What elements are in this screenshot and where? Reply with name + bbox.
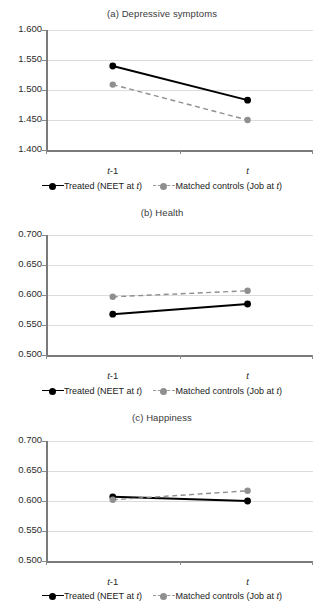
control-line: [113, 291, 248, 297]
y-axis-tick-label: 0.700: [0, 228, 42, 239]
panel-legend: Treated (NEET at t) Matched controls (Jo…: [0, 590, 324, 601]
legend-marker-control-icon: [153, 181, 175, 190]
treated-data-point: [109, 63, 116, 70]
x-axis-tick-mark: [46, 355, 47, 359]
control-data-point: [244, 117, 250, 123]
x-axis-tick-mark: [312, 355, 313, 359]
series-group: [46, 30, 313, 150]
y-axis-tick-label: 1.550: [0, 53, 42, 64]
y-axis-tick-label: 0.500: [0, 554, 42, 565]
y-axis-tick-label: 0.650: [0, 258, 42, 269]
legend-marker-treated-icon: [42, 591, 64, 600]
x-axis-tick-label-t: t: [218, 576, 278, 587]
panel-legend: Treated (NEET at t) Matched controls (Jo…: [0, 180, 324, 191]
legend-item-control: Matched controls (Job at t): [153, 385, 282, 396]
y-axis-tick-label: 1.500: [0, 83, 42, 94]
legend-label-control: Matched controls (Job at t): [175, 181, 282, 191]
legend-label-control: Matched controls (Job at t): [175, 386, 282, 396]
series-group: [46, 441, 313, 561]
control-line: [113, 85, 248, 120]
plot-area: 1.6001.5501.5001.4501.400: [46, 30, 313, 150]
treated-line: [113, 304, 248, 314]
legend-marker-control-icon: [153, 386, 175, 395]
legend-item-control: Matched controls (Job at t): [153, 590, 282, 601]
x-axis-tick-label-t-minus-1: t-1: [83, 165, 143, 176]
legend-item-treated: Treated (NEET at t): [42, 180, 142, 191]
treated-line: [113, 66, 248, 100]
y-axis-tick-label: 0.700: [0, 434, 42, 445]
plot-area: 0.7000.6500.6000.5500.500: [46, 441, 313, 561]
legend-label-treated: Treated (NEET at t): [64, 181, 142, 191]
y-axis-tick-label: 0.500: [0, 348, 42, 359]
x-axis-tick-mark: [180, 561, 181, 565]
legend-item-treated: Treated (NEET at t): [42, 590, 142, 601]
y-axis-tick-label: 0.550: [0, 524, 42, 535]
series-group: [46, 235, 313, 355]
treated-data-point: [244, 97, 251, 104]
control-data-point: [110, 81, 116, 87]
legend-label-control: Matched controls (Job at t): [175, 591, 282, 601]
x-axis-tick-mark: [312, 561, 313, 565]
x-axis-tick-mark: [180, 355, 181, 359]
control-data-point: [110, 294, 116, 300]
y-axis-tick-label: 1.600: [0, 23, 42, 34]
treated-data-point: [244, 498, 251, 505]
y-axis-tick-label: 0.600: [0, 288, 42, 299]
y-axis-tick-label: 1.450: [0, 113, 42, 124]
legend-marker-control-icon: [153, 591, 175, 600]
x-axis-tick-mark: [46, 561, 47, 565]
chart-panel-3: (c) Happiness 0.7000.6500.6000.5500.500 …: [0, 410, 324, 614]
treated-data-point: [109, 311, 116, 318]
control-data-point: [244, 488, 250, 494]
panel-title-1: (a) Depressive symptoms: [0, 8, 324, 19]
x-axis-tick-label-t-minus-1: t-1: [83, 576, 143, 587]
x-axis-tick-label-t-minus-1: t-1: [83, 370, 143, 381]
y-axis-tick-label: 0.550: [0, 318, 42, 329]
x-axis-tick-label-t: t: [218, 370, 278, 381]
panel-legend: Treated (NEET at t) Matched controls (Jo…: [0, 385, 324, 396]
treated-data-point: [244, 301, 251, 308]
legend-item-treated: Treated (NEET at t): [42, 385, 142, 396]
control-data-point: [244, 288, 250, 294]
legend-item-control: Matched controls (Job at t): [153, 180, 282, 191]
x-axis-tick-label-t: t: [218, 165, 278, 176]
y-axis-tick-label: 0.650: [0, 464, 42, 475]
legend-label-treated: Treated (NEET at t): [64, 591, 142, 601]
x-axis-tick-mark: [312, 150, 313, 154]
x-axis-tick-mark: [46, 150, 47, 154]
legend-marker-treated-icon: [42, 386, 64, 395]
panel-title-3: (c) Happiness: [0, 412, 324, 423]
panel-title-2: (b) Health: [0, 207, 324, 218]
chart-panel-1: (a) Depressive symptoms 1.6001.5501.5001…: [0, 0, 324, 204]
legend-label-treated: Treated (NEET at t): [64, 386, 142, 396]
y-axis-tick-label: 0.600: [0, 494, 42, 505]
chart-panel-2: (b) Health 0.7000.6500.6000.5500.500 Tre…: [0, 205, 324, 409]
y-axis-tick-label: 1.400: [0, 143, 42, 154]
plot-area: 0.7000.6500.6000.5500.500: [46, 235, 313, 355]
legend-marker-treated-icon: [42, 181, 64, 190]
x-axis-tick-mark: [180, 150, 181, 154]
control-data-point: [110, 497, 116, 503]
